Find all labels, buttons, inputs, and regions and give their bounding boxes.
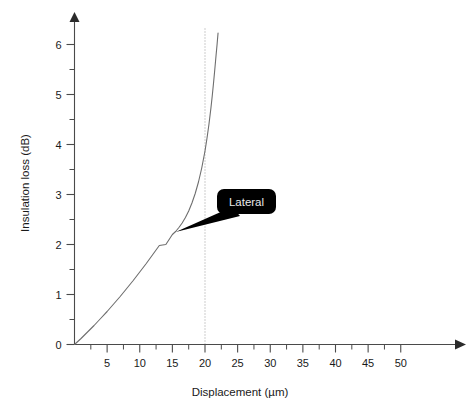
x-tick-label: 45 [362, 357, 374, 369]
y-axis-tick-labels: 0123456 [55, 39, 61, 351]
y-tick-label: 3 [55, 189, 61, 201]
x-tick-label: 40 [329, 357, 341, 369]
x-tick-label: 30 [264, 357, 276, 369]
x-tick-label: 50 [395, 357, 407, 369]
x-tick-label: 25 [232, 357, 244, 369]
y-axis-arrowhead [70, 12, 80, 22]
y-tick-label: 0 [55, 339, 61, 351]
x-tick-label: 10 [134, 357, 146, 369]
x-axis-tick-labels: 5101520253035404550 [104, 357, 407, 369]
y-tick-label: 6 [55, 39, 61, 51]
x-tick-label: 5 [104, 357, 110, 369]
y-tick-label: 2 [55, 239, 61, 251]
lateral-loss-curve [75, 33, 219, 345]
y-tick-label: 5 [55, 89, 61, 101]
y-axis-title: Insulation loss (dB) [19, 134, 31, 232]
chart-container: 5101520253035404550 0123456 Lateral Insu… [0, 0, 469, 411]
insulation-loss-chart: 5101520253035404550 0123456 Lateral Insu… [0, 0, 469, 411]
x-tick-label: 35 [297, 357, 309, 369]
y-tick-label: 1 [55, 289, 61, 301]
y-axis-major-ticks [67, 45, 75, 345]
y-tick-label: 4 [55, 139, 61, 151]
x-axis-arrowhead [455, 340, 466, 350]
x-axis-title: Displacement (µm) [192, 386, 289, 398]
x-tick-label: 20 [199, 357, 211, 369]
callout-label: Lateral [229, 196, 264, 208]
x-tick-label: 15 [166, 357, 178, 369]
